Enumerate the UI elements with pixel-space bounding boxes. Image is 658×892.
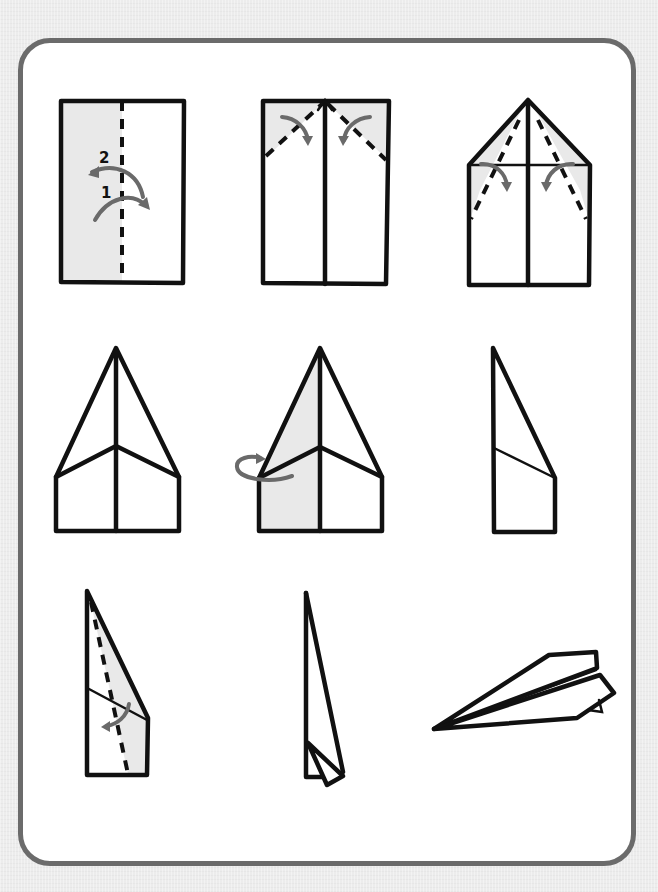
fold-order-label: 1 (101, 184, 111, 202)
step-2-fold-corners (263, 100, 389, 284)
step-5-fold-in-half-back (237, 348, 382, 531)
step-8-repeat-other-side (306, 593, 343, 785)
step-4-nose-formed (56, 348, 179, 531)
step-6-folded-side-view (493, 348, 555, 532)
step-9-finished-airplane (434, 652, 614, 729)
step-1-fold-in-half: 2 1 (61, 101, 184, 283)
folding-diagram: 2 1 (0, 0, 658, 892)
step-3-fold-edges-to-center (469, 100, 590, 285)
fold-order-label: 2 (99, 149, 109, 167)
step-7-fold-wing-down (87, 591, 148, 775)
